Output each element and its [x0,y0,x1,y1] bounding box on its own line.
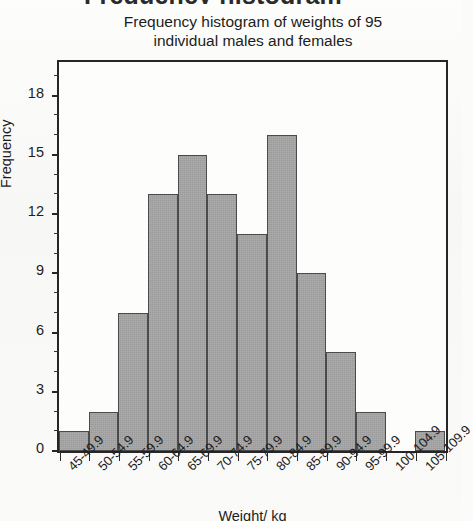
y-axis-tick-major [52,391,59,393]
y-axis-tick-label: 12 [4,203,44,219]
histogram-bar [148,194,178,451]
y-axis-tick-minor [54,134,59,135]
y-axis-tick-minor [54,371,59,372]
y-axis-tick-minor [54,193,59,194]
histogram-bar [297,273,327,451]
clipped-page-heading: Frequency histogram [84,0,342,4]
y-axis-tick-label: 9 [4,262,44,278]
chart-title: Frequency histogram of weights of 95 ind… [57,12,449,50]
bars-container [59,62,446,451]
y-axis-tick-label: 0 [4,440,44,456]
y-axis-tick-major [52,332,59,334]
x-axis-title: Weight/ kg [57,508,448,521]
y-axis-tick-minor [54,351,59,352]
y-axis-tick-minor [54,253,59,254]
y-axis-tick-minor [54,430,59,431]
y-axis-tick-major [52,272,59,274]
y-axis-tick-label: 3 [4,381,44,397]
histogram-bar [178,155,208,451]
y-axis-tick-minor [54,174,59,175]
x-axis-tick [60,453,61,461]
histogram-bar [267,135,297,451]
chart-title-line-2: individual males and females [57,31,449,50]
y-axis-tick-label: 6 [4,322,44,338]
y-axis-tick-minor [54,114,59,115]
histogram-bar [207,194,237,451]
y-axis-tick-major [52,213,59,215]
y-axis-tick-minor [54,411,59,412]
histogram-bar [118,313,148,451]
plot-area [57,60,448,453]
chart-title-line-1: Frequency histogram of weights of 95 [124,13,382,30]
y-axis-tick-minor [54,75,59,76]
y-axis-tick-label: 15 [4,144,44,160]
y-axis-tick-minor [54,292,59,293]
y-axis-tick-major [52,450,59,452]
y-axis-tick-label: 18 [4,85,44,101]
y-axis-tick-major [52,154,59,156]
y-axis-tick-major [52,95,59,97]
y-axis-tick-minor [54,233,59,234]
histogram-bar [237,234,267,451]
y-axis-tick-minor [54,312,59,313]
